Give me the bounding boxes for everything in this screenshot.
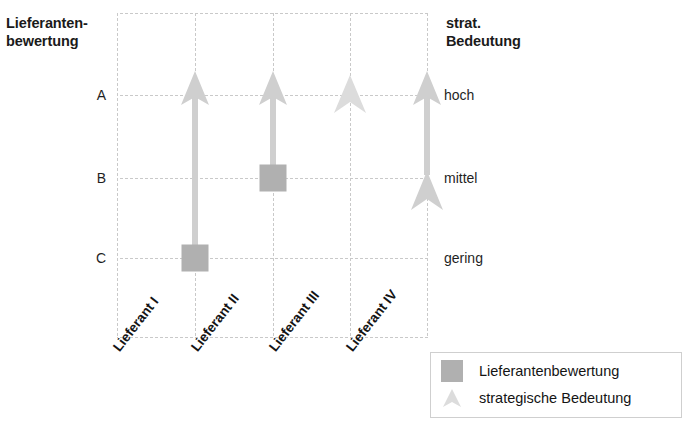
right-tick-label-gering: gering [444, 250, 483, 266]
gridline-horizontal [117, 13, 428, 14]
y-axis-title: Lieferanten- bewertung [6, 14, 88, 50]
gridline-vertical [350, 13, 351, 338]
legend-item-lieferantenbewertung: Lieferantenbewertung [441, 359, 619, 383]
evaluation-marker-lieferant-1 [182, 245, 209, 272]
triangle-swatch-icon [441, 387, 463, 409]
evaluation-marker-lieferant-2 [260, 165, 287, 192]
y-tick-label-B: B [66, 170, 106, 186]
plot-area [117, 13, 428, 338]
gridline-vertical [117, 13, 118, 338]
legend-label-lieferantenbewertung: Lieferantenbewertung [479, 363, 619, 379]
square-swatch-icon [441, 360, 463, 382]
legend: Lieferantenbewertung strategische Bedeut… [430, 352, 682, 418]
y-tick-label-A: A [66, 87, 106, 103]
legend-label-strategische-bedeutung: strategische Bedeutung [479, 390, 631, 406]
right-axis-title: strat. Bedeutung [446, 14, 521, 50]
y-tick-label-C: C [66, 250, 106, 266]
right-tick-label-mittel: mittel [444, 170, 477, 186]
legend-item-strategische-bedeutung: strategische Bedeutung [441, 386, 631, 410]
right-tick-label-hoch: hoch [444, 87, 474, 103]
